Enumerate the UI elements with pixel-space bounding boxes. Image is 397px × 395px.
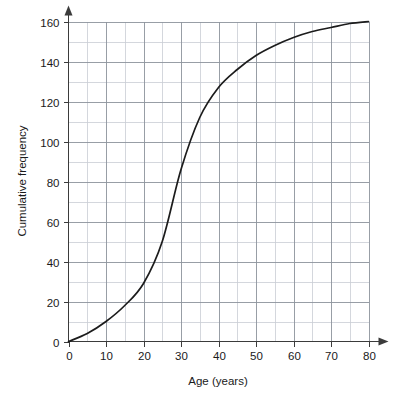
x-axis-tick-label: 50: [250, 350, 263, 362]
axis-lines: [65, 6, 389, 346]
grid-major-lines: [69, 22, 370, 342]
cumulative-frequency-curve: [69, 22, 369, 342]
y-axis-tick-label: 60: [47, 217, 60, 229]
y-axis-arrow-icon: [65, 6, 73, 16]
data-series-curve: [69, 22, 369, 342]
x-axis-tick-label: 0: [66, 350, 72, 362]
x-axis-tick-label: 70: [325, 350, 338, 362]
y-axis-tick-label: 120: [40, 97, 59, 109]
y-axis-tick-label: 80: [47, 177, 60, 189]
y-axis-tick-label: 100: [40, 137, 59, 149]
y-axis-tick-label: 40: [47, 257, 60, 269]
x-axis-tick-label: 30: [175, 350, 188, 362]
y-axis-tick-label: 20: [47, 297, 60, 309]
x-axis-tick-label: 10: [100, 350, 113, 362]
x-axis-arrow-icon: [379, 338, 389, 346]
x-axis-title: Age (years): [188, 375, 248, 387]
y-axis-tick-label: 160: [40, 17, 59, 29]
chart-canvas: 01020304050607080 020406080100120140160 …: [0, 0, 397, 395]
y-axis-tick-label: 0: [53, 337, 59, 349]
y-axis-tick-labels: 020406080100120140160: [40, 17, 59, 349]
y-axis-title: Cumulative frequency: [16, 125, 28, 236]
cumulative-frequency-chart: 01020304050607080 020406080100120140160 …: [0, 0, 397, 395]
x-axis-tick-label: 40: [213, 350, 226, 362]
x-axis-tick-label: 20: [138, 350, 151, 362]
x-axis-tick-labels: 01020304050607080: [66, 350, 376, 362]
x-axis-tick-label: 80: [363, 350, 376, 362]
axis-ticks: [64, 23, 370, 347]
x-axis-tick-label: 60: [288, 350, 301, 362]
y-axis-tick-label: 140: [40, 57, 59, 69]
grid-minor-lines: [69, 22, 369, 342]
